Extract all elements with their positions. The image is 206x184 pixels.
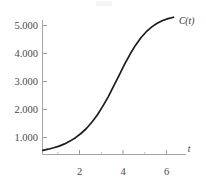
x-axis-label: t <box>188 144 191 154</box>
x-tick-label-2: 2 <box>77 166 82 177</box>
x-tick-label-4: 4 <box>120 166 126 177</box>
curve-c-of-t <box>43 17 174 150</box>
y-tick-label-3: 3.000 <box>14 76 38 87</box>
plot-area: 5.000 4.000 3.000 2.000 1.000 2 4 6 t C(… <box>0 0 206 184</box>
x-tick-label-6: 6 <box>164 166 169 177</box>
x-axis-ticks <box>80 150 167 155</box>
y-tick-label-4: 4.000 <box>14 48 38 59</box>
y-tick-label-5: 5.000 <box>14 20 38 31</box>
y-axis-ticks <box>43 26 48 138</box>
y-tick-label-1: 1.000 <box>14 132 38 143</box>
y-tick-label-2: 2.000 <box>14 104 38 115</box>
chart-figure: 5.000 4.000 3.000 2.000 1.000 2 4 6 t C(… <box>0 0 206 184</box>
series-label-c-of-t: C(t) <box>179 16 194 27</box>
